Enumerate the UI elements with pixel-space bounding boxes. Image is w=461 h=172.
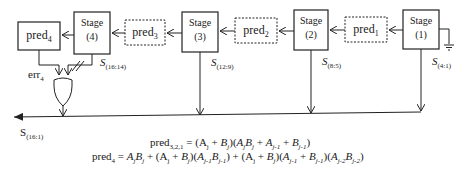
pred1-label: pred1 <box>345 22 387 38</box>
stage1-label: Stage(1) <box>403 14 439 42</box>
pred4-label: pred4 <box>18 28 60 44</box>
stage2-label: Stage(2) <box>294 14 328 42</box>
pred3-label: pred3 <box>125 25 165 41</box>
formula-pred-4: pred4 = AjBj + (Aj + Bj)(Aj-1Bj-1) + (Aj… <box>92 150 364 165</box>
error-label: err4 <box>28 68 44 83</box>
sum-label-16-14: S(16:14) <box>100 56 126 71</box>
ground-icon <box>439 29 454 50</box>
stage3-label: Stage(3) <box>182 16 218 44</box>
output-label: S(16:1) <box>20 126 43 141</box>
formula-pred-321: pred3,2,1 = (Aj + Bj)(AjBj + Aj-1 + Bj-1… <box>150 136 310 151</box>
sum-label-4-1: S(4:1) <box>432 55 451 70</box>
stage4-label: Stage(4) <box>74 16 110 44</box>
pred2-label: pred2 <box>235 23 277 39</box>
sum-label-12-9: S(12:9) <box>211 56 234 71</box>
sum-label-8-5: S(8:5) <box>322 55 341 70</box>
error-path <box>39 50 92 116</box>
output-bus <box>14 112 421 117</box>
